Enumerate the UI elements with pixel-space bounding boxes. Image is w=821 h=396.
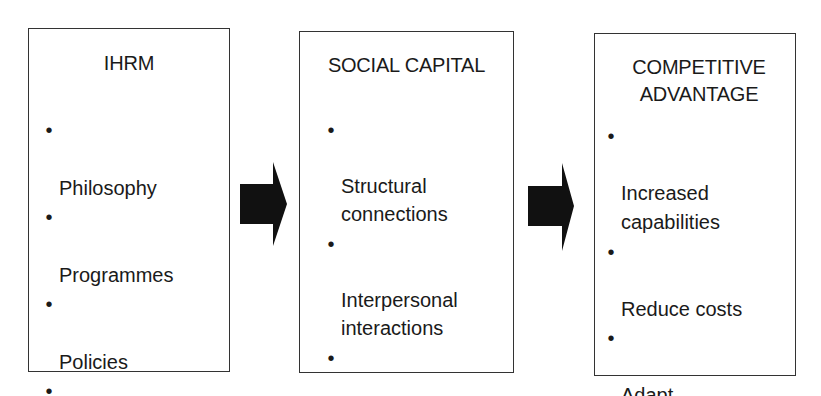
box-title-competitive-advantage: COMPETITIVE ADVANTAGE (603, 54, 795, 108)
bullet-icon: • (325, 116, 337, 144)
list-item: • Interpersonal interactions (325, 230, 468, 342)
list-item-label: Interpersonal interactions (341, 289, 458, 339)
box-social-capital: SOCIAL CAPITAL • Structural connections … (299, 31, 514, 373)
box-title-ihrm: IHRM (29, 50, 229, 77)
list-item: • Increased capabilities (605, 122, 742, 236)
list-item-label: Policies (59, 351, 128, 373)
bullet-icon: • (43, 203, 55, 232)
ihrm-list: • Philosophy • Programmes • Policies • P… (43, 116, 173, 396)
bullet-icon: • (43, 116, 55, 145)
block-arrow-right-icon (528, 163, 575, 251)
list-item: • Programmes (43, 203, 173, 290)
list-item: • Policies (43, 290, 173, 377)
list-item-label: Structural connections (341, 175, 448, 225)
list-item: • Adapt (605, 324, 742, 396)
bullet-icon: • (43, 377, 55, 396)
list-item: • Reduce costs (605, 238, 742, 324)
bullet-icon: • (605, 238, 617, 267)
arrow-1-shape (240, 162, 288, 246)
block-arrow-right-icon (240, 162, 288, 246)
box-title-social-capital: SOCIAL CAPITAL (300, 52, 513, 79)
list-item-label: Increased capabilities (621, 182, 720, 233)
list-item-label: Philosophy (59, 177, 157, 199)
box-competitive-advantage: COMPETITIVE ADVANTAGE • Increased capabi… (594, 33, 796, 376)
competitive-advantage-list: • Increased capabilities • Reduce costs … (605, 122, 742, 396)
list-item: • Cognitive understanding (325, 344, 468, 396)
list-item-label: Programmes (59, 264, 173, 286)
list-item-label: Adapt (621, 384, 673, 396)
bullet-icon: • (43, 290, 55, 319)
list-item: • Structural connections (325, 116, 468, 228)
list-item-label: Reduce costs (621, 298, 742, 320)
bullet-icon: • (605, 324, 617, 353)
bullet-icon: • (605, 122, 617, 151)
list-item: • Philosophy (43, 116, 173, 203)
list-item: • Practices (43, 377, 173, 396)
bullet-icon: • (325, 344, 337, 372)
social-capital-list: • Structural connections • Interpersonal… (325, 116, 468, 396)
box-ihrm: IHRM • Philosophy • Programmes • Policie… (28, 28, 230, 372)
bullet-icon: • (325, 230, 337, 258)
arrow-2-shape (528, 163, 575, 251)
